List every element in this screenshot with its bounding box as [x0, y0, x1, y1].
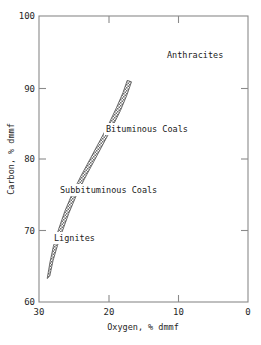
- label-anthracites: Anthracites: [167, 50, 223, 60]
- coal-band-path: [47, 80, 131, 278]
- label-lignites: Lignites: [54, 233, 95, 243]
- coalification-chart-figure: Anthracites Bituminous Coals Subbitumino…: [0, 0, 261, 345]
- y-tick-label-60: 60: [24, 297, 35, 307]
- coal-band-region: [47, 80, 131, 278]
- x-tick-label-10: 10: [173, 307, 184, 317]
- y-tick-label-100: 100: [19, 11, 35, 21]
- x-axis-title: Oxygen, % dmmf: [107, 322, 179, 332]
- chart-canvas: Anthracites Bituminous Coals Subbitumino…: [0, 0, 261, 345]
- label-subbituminous-coals: Subbituminous Coals: [60, 185, 157, 195]
- x-tick-label-20: 20: [104, 307, 115, 317]
- x-tick-label-0: 0: [245, 307, 250, 317]
- y-tick-label-90: 90: [24, 84, 35, 94]
- x-tick-label-30: 30: [34, 307, 45, 317]
- y-axis-title: Carbon, % dmmf: [6, 123, 16, 195]
- y-tick-label-80: 80: [24, 154, 35, 164]
- label-backgrounds: [52, 49, 239, 244]
- y-tick-label-70: 70: [24, 226, 35, 236]
- label-bituminous-coals: Bituminous Coals: [106, 124, 188, 134]
